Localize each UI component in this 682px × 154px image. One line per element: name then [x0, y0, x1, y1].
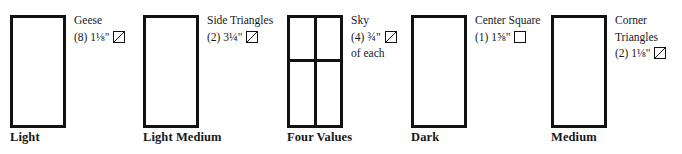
fabric-group-light-medium: Light Medium Side Triangles (2) 3¼" [143, 0, 293, 154]
triangle-icon [246, 31, 258, 43]
fabric-group-dark: Dark Center Square (1) 1⅝" [411, 0, 561, 154]
cut-size-corner-triangles: 1⅛" [631, 47, 650, 59]
fabric-value-label-four-values: Four Values [287, 130, 352, 145]
cut-instructions-center-square: Center Square (1) 1⅝" [475, 12, 540, 45]
cut-piece-name-sky: Sky [351, 12, 397, 29]
cut-size-side-triangles: 3¼" [223, 31, 242, 43]
cut-spec-line-center-square: (1) 1⅝" [475, 29, 540, 46]
swatch-horizontal-divider [290, 59, 340, 62]
fabric-swatch-four-values[interactable] [287, 15, 343, 128]
fabric-swatch-dark[interactable] [411, 15, 467, 128]
fabric-value-label-light-medium: Light Medium [143, 130, 222, 145]
fabric-group-light: Light Geese (8) 1⅛" [10, 0, 140, 154]
cut-piece-name-side-triangles: Side Triangles [207, 12, 273, 29]
cut-instructions-corner-triangles: Corner Triangles (2) 1⅛" [615, 12, 666, 62]
triangle-icon [385, 31, 397, 43]
cut-quantity-geese: (8) [74, 31, 87, 43]
cut-piece-name-corner-triangles-line2: Triangles [615, 29, 666, 46]
cut-quantity-sky: (4) [351, 31, 364, 43]
fabric-value-chart: Light Geese (8) 1⅛" Light Medium Side Tr… [0, 0, 682, 154]
triangle-icon [113, 31, 125, 43]
fabric-swatch-light[interactable] [10, 15, 66, 128]
cut-instructions-geese: Geese (8) 1⅛" [74, 12, 125, 45]
cut-size-geese: 1⅛" [90, 31, 109, 43]
cut-spec-line-geese: (8) 1⅛" [74, 29, 125, 46]
cut-spec-line-side-triangles: (2) 3¼" [207, 29, 273, 46]
cut-instructions-sky: Sky (4) ¾" of each [351, 12, 397, 62]
cut-spec-line-sky: (4) ¾" [351, 29, 397, 46]
cut-quantity-corner-triangles: (2) [615, 47, 628, 59]
fabric-swatch-light-medium[interactable] [143, 15, 199, 128]
cut-piece-name-corner-triangles-line1: Corner [615, 12, 666, 29]
cut-instructions-side-triangles: Side Triangles (2) 3¼" [207, 12, 273, 45]
square-icon [514, 31, 526, 43]
cut-quantity-side-triangles: (2) [207, 31, 220, 43]
swatch-vertical-divider [314, 18, 317, 125]
fabric-swatch-medium[interactable] [551, 15, 607, 128]
cut-note-sky: of each [351, 45, 397, 62]
fabric-value-label-light: Light [10, 130, 40, 145]
fabric-group-four-values: Four Values Sky (4) ¾" of each [287, 0, 412, 154]
cut-quantity-center-square: (1) [475, 31, 488, 43]
cut-piece-name-center-square: Center Square [475, 12, 540, 29]
cut-piece-name-geese: Geese [74, 12, 125, 29]
cut-size-sky: ¾" [367, 31, 380, 43]
fabric-group-medium: Medium Corner Triangles (2) 1⅛" [551, 0, 682, 154]
cut-size-center-square: 1⅝" [491, 31, 510, 43]
fabric-value-label-medium: Medium [551, 130, 597, 145]
fabric-value-label-dark: Dark [411, 130, 439, 145]
cut-spec-line-corner-triangles: (2) 1⅛" [615, 45, 666, 62]
triangle-icon [654, 47, 666, 59]
